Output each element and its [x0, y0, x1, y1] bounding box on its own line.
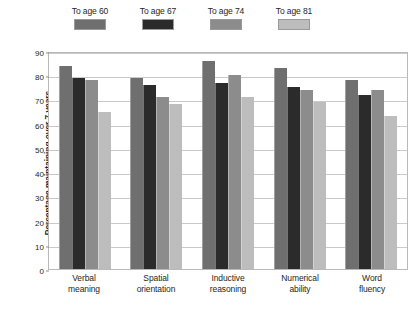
bar[interactable]: [300, 90, 313, 269]
x-axis-label-line1: Inductive: [193, 273, 263, 284]
x-axis-label-line1: Numerical: [265, 273, 335, 284]
bar[interactable]: [156, 97, 169, 269]
bar[interactable]: [85, 80, 98, 269]
x-axis-label-line2: fluency: [337, 284, 407, 295]
bar[interactable]: [72, 78, 85, 269]
bar[interactable]: [274, 68, 287, 269]
bar[interactable]: [130, 78, 143, 269]
y-tick-label: 60: [35, 121, 44, 130]
bar[interactable]: [215, 83, 228, 270]
x-axis-label-line2: meaning: [49, 284, 119, 295]
y-tick-label: 10: [35, 242, 44, 251]
legend-swatch: [142, 19, 174, 30]
bar-chart: To age 60To age 67To age 74To age 81 Per…: [0, 0, 415, 313]
x-axis-label: Wordfluency: [337, 273, 407, 295]
bar[interactable]: [371, 90, 384, 269]
y-tick-label: 50: [35, 145, 44, 154]
bar-group: [202, 53, 254, 269]
plot-area: 0102030405060708090: [48, 52, 408, 270]
bar[interactable]: [202, 61, 215, 269]
bar[interactable]: [228, 75, 241, 269]
x-axis-label-line2: orientation: [121, 284, 191, 295]
bar-group: [130, 53, 182, 269]
bar[interactable]: [287, 87, 300, 269]
x-axis-label-line2: reasoning: [193, 284, 263, 295]
y-tick-label: 30: [35, 194, 44, 203]
y-tick-label: 40: [35, 170, 44, 179]
x-axis-label: Inductivereasoning: [193, 273, 263, 295]
bar[interactable]: [345, 80, 358, 269]
bar[interactable]: [59, 66, 72, 269]
bar[interactable]: [143, 85, 156, 269]
legend-item[interactable]: To age 60: [62, 6, 118, 30]
x-axis-label: Numericalability: [265, 273, 335, 295]
legend-item-label: To age 74: [208, 6, 244, 16]
chart-legend: To age 60To age 67To age 74To age 81: [62, 6, 322, 44]
legend-item-label: To age 60: [72, 6, 108, 16]
x-axis-label-line2: ability: [265, 284, 335, 295]
legend-swatch: [210, 19, 242, 30]
legend-item-label: To age 81: [276, 6, 312, 16]
y-tick-label: 90: [35, 49, 44, 58]
legend-item-label: To age 67: [140, 6, 176, 16]
x-axis-label-line1: Word: [337, 273, 407, 284]
x-axis-label: Spatialorientation: [121, 273, 191, 295]
bar-groups: [49, 53, 407, 269]
legend-item[interactable]: To age 67: [130, 6, 186, 30]
legend-item[interactable]: To age 81: [266, 6, 322, 30]
bar[interactable]: [313, 102, 326, 269]
x-axis-label-line1: Verbal: [49, 273, 119, 284]
bar-group: [274, 53, 326, 269]
y-tick-label: 20: [35, 218, 44, 227]
bar[interactable]: [98, 112, 111, 269]
y-tick-label: 0: [40, 267, 44, 276]
bar-group: [59, 53, 111, 269]
bar[interactable]: [358, 95, 371, 269]
legend-swatch: [74, 19, 106, 30]
x-axis-label: Verbalmeaning: [49, 273, 119, 295]
bar-group: [345, 53, 397, 269]
legend-item[interactable]: To age 74: [198, 6, 254, 30]
bar[interactable]: [241, 97, 254, 269]
bar[interactable]: [384, 116, 397, 269]
bar[interactable]: [169, 104, 182, 269]
y-tick-mark: [46, 271, 49, 272]
y-tick-label: 70: [35, 97, 44, 106]
legend-swatch: [278, 19, 310, 30]
x-axis-label-line1: Spatial: [121, 273, 191, 284]
y-tick-label: 80: [35, 73, 44, 82]
x-axis-labels: VerbalmeaningSpatialorientationInductive…: [48, 273, 408, 295]
